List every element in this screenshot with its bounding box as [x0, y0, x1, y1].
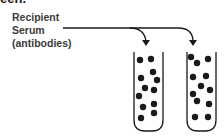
cell-dot [140, 104, 146, 110]
cell-dot [194, 98, 200, 104]
cell-dot [205, 56, 211, 62]
cells [136, 54, 213, 121]
cell-dot [151, 87, 157, 93]
cell-dot [137, 57, 143, 63]
cell-dot [207, 87, 213, 93]
cell-dot [154, 77, 160, 83]
arrowhead-icon [142, 40, 150, 46]
cell-dot [190, 91, 196, 97]
cell-dot [203, 73, 209, 79]
arrow-to-tube-1 [63, 28, 146, 41]
cell-dot [136, 93, 142, 99]
cell-dot [194, 60, 200, 66]
cell-dot [151, 110, 157, 116]
cell-dot [190, 74, 196, 80]
cell-dot [150, 69, 156, 75]
cell-dot [142, 85, 148, 91]
arrowhead-icon [189, 40, 197, 46]
cell-dot [206, 101, 212, 107]
cell-dot [138, 115, 144, 121]
cell-dot [198, 83, 204, 89]
cell-dot [188, 54, 194, 60]
cell-dot [192, 114, 198, 120]
cell-dot [205, 114, 211, 120]
cell-dot [138, 75, 144, 81]
cell-dot [151, 101, 157, 107]
cell-dot [148, 56, 154, 62]
serum-arrows [63, 28, 193, 41]
diagram-svg [0, 0, 224, 137]
